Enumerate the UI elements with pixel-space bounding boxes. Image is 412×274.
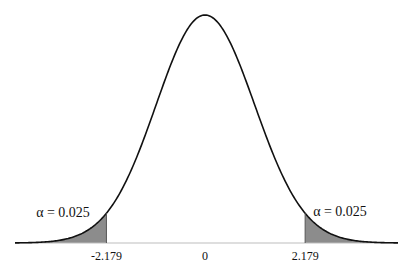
critical-value-lines [106, 213, 305, 243]
tick-label: 0 [202, 249, 208, 263]
alpha-label-right: α = 0.025 [313, 204, 367, 219]
tick-label: -2.179 [91, 249, 122, 263]
x-tick-labels: -2.17902.179 [91, 249, 319, 263]
alpha-label-left: α = 0.025 [36, 205, 90, 220]
t-distribution-chart: -2.17902.179 α = 0.025 α = 0.025 [0, 0, 412, 274]
tick-label: 2.179 [292, 249, 319, 263]
